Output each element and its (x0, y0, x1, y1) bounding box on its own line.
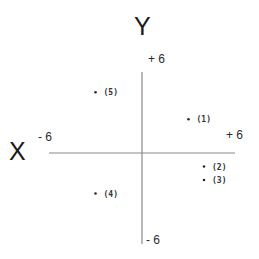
data-point-label: (4) (104, 190, 118, 199)
data-point (94, 192, 97, 195)
data-point (94, 91, 97, 94)
data-point-label: (3) (212, 176, 226, 185)
y-max-tick-label: + 6 (148, 52, 165, 66)
x-max-tick-label: + 6 (226, 128, 243, 142)
points-layer: (1)(2)(3)(4)(5) (94, 88, 226, 198)
x-axis-title: X (9, 137, 26, 165)
data-point-label: (2) (212, 163, 226, 172)
data-point (203, 165, 206, 168)
x-min-tick-label: - 6 (38, 130, 52, 144)
data-point-label: (1) (197, 115, 211, 124)
data-point-label: (5) (104, 88, 118, 97)
coordinate-plane: X Y - 6 + 6 + 6 - 6 (1)(2)(3)(4)(5) (0, 0, 259, 259)
y-min-tick-label: - 6 (146, 233, 160, 247)
data-point (203, 179, 206, 182)
y-axis-title: Y (134, 12, 151, 40)
data-point (187, 118, 190, 121)
